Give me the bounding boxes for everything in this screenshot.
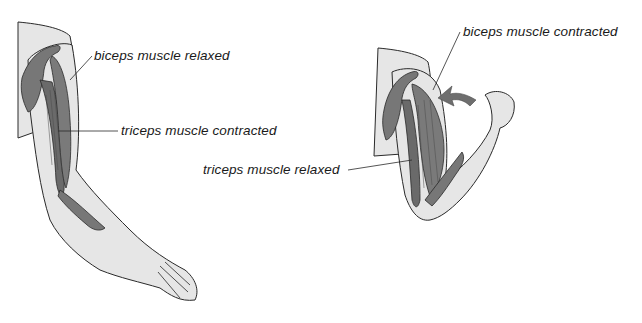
arm-flexed-figure	[374, 48, 514, 220]
leader-line-biceps-contracted	[433, 32, 460, 90]
arm-extended-figure	[18, 22, 197, 300]
label-triceps-contracted: triceps muscle contracted	[121, 123, 277, 138]
label-biceps-relaxed: biceps muscle relaxed	[94, 48, 230, 63]
label-biceps-contracted: biceps muscle contracted	[463, 24, 618, 39]
diagram-canvas: biceps muscle relaxed triceps muscle con…	[0, 0, 642, 323]
curved-arrow-icon	[438, 86, 476, 106]
label-triceps-relaxed: triceps muscle relaxed	[203, 162, 340, 177]
